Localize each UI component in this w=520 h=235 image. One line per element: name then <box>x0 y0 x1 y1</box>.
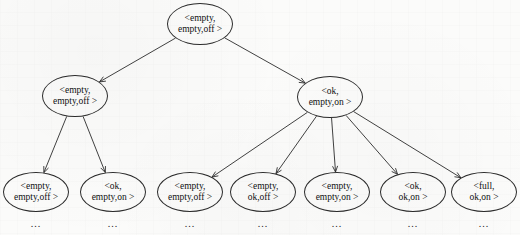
node-label-line1: <empty, <box>60 85 91 96</box>
subtree-ellipsis: ... <box>170 219 210 229</box>
node-label-line1: <ok, <box>321 86 338 97</box>
tree-edge <box>354 112 461 178</box>
node-label-line1: <empty, <box>322 181 353 192</box>
node-label-line2: empty,off > <box>14 192 58 203</box>
tree-node[interactable]: <ok,empty,on > <box>80 172 146 212</box>
tree-edge <box>83 116 105 172</box>
tree-edge <box>332 118 338 172</box>
node-label-line1: <empty, <box>175 181 206 192</box>
edge-arrowhead <box>99 77 105 82</box>
tree-diagram-canvas: <empty,empty,off ><empty,empty,off ><ok,… <box>0 0 520 235</box>
tree-node[interactable]: <ok,empty,on > <box>297 76 363 118</box>
tree-edge <box>346 115 398 174</box>
tree-edge <box>212 112 307 177</box>
tree-edge <box>99 38 175 82</box>
tree-edge <box>276 116 317 173</box>
tree-node[interactable]: <empty,empty,off > <box>157 172 223 212</box>
node-label-line2: empty,on > <box>92 192 135 203</box>
node-label-line2: empty,off > <box>53 96 97 107</box>
node-label-line1: <empty, <box>21 181 52 192</box>
node-label-line1: <ok, <box>404 181 421 192</box>
tree-edge <box>44 116 67 172</box>
node-label-line2: empty,off > <box>168 192 212 203</box>
node-label-line1: <empty, <box>248 181 279 192</box>
node-label-line1: <empty, <box>185 13 216 24</box>
node-label-line2: empty,on > <box>309 97 352 108</box>
edge-arrowhead <box>212 172 218 177</box>
node-label-line2: ok,off > <box>248 192 279 203</box>
subtree-ellipsis: ... <box>93 219 133 229</box>
node-label-line2: ok,on > <box>398 192 427 203</box>
tree-node[interactable]: <empty,empty,off > <box>42 75 108 117</box>
tree-node[interactable]: <empty,empty,on > <box>304 172 370 212</box>
subtree-ellipsis: ... <box>16 219 56 229</box>
node-label-line2: empty,off > <box>178 24 222 35</box>
tree-node[interactable]: <empty,empty,off > <box>167 3 233 45</box>
subtree-ellipsis: ... <box>393 219 433 229</box>
subtree-ellipsis: ... <box>464 219 504 229</box>
tree-node[interactable]: <full,ok,on > <box>451 172 517 212</box>
node-label-line2: empty,on > <box>316 192 359 203</box>
subtree-ellipsis: ... <box>317 219 357 229</box>
tree-node[interactable]: <ok,ok,on > <box>380 172 446 212</box>
node-label-line1: <full, <box>474 181 495 192</box>
node-label-line2: ok,on > <box>469 192 498 203</box>
subtree-ellipsis: ... <box>243 219 283 229</box>
tree-node[interactable]: <empty,ok,off > <box>230 172 296 212</box>
tree-edge <box>225 38 306 83</box>
node-label-line1: <ok, <box>104 181 121 192</box>
tree-node[interactable]: <empty,empty,off > <box>3 172 69 212</box>
